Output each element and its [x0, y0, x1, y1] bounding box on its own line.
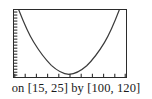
y-axis-ticks	[14, 12, 17, 75]
parabola-figure: on [15, 25] by [100, 120]	[0, 0, 152, 99]
figure-caption: on [15, 25] by [100, 120]	[0, 80, 152, 97]
calculator-screen	[13, 9, 127, 78]
plot-area	[14, 10, 126, 77]
parabola-curve	[18, 10, 119, 74]
